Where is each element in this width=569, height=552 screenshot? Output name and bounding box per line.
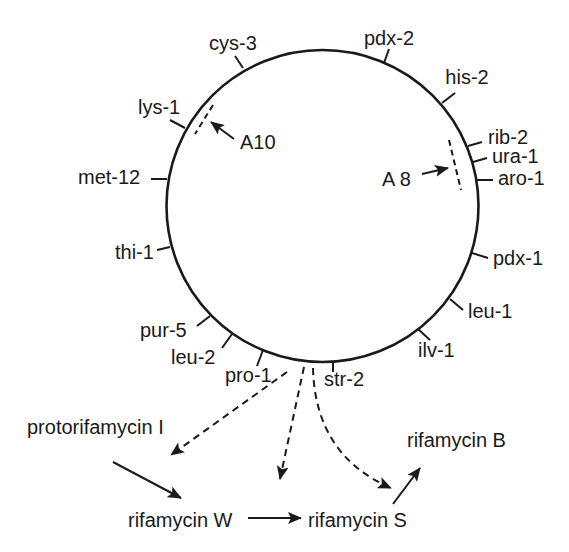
locus-label-str-2: str-2 xyxy=(324,368,364,390)
region-a10-label: A10 xyxy=(240,131,276,153)
compound-rifamycin-w: rifamycin W xyxy=(128,509,233,531)
locus-label-his-2: his-2 xyxy=(445,66,488,88)
region-a10-arrow-icon xyxy=(211,122,234,139)
locus-label-pro-1: pro-1 xyxy=(225,364,272,386)
arrow-protorifamycin-to-rifamycin-w-icon xyxy=(113,462,181,498)
locus-ticks xyxy=(151,49,493,372)
locus-label-leu-1: leu-1 xyxy=(468,300,512,322)
tick-his-2 xyxy=(442,93,455,103)
diagram-canvas: cys-3 pdx-2 his-2 rib-2 ura-1 aro-1 pdx-… xyxy=(0,0,569,552)
arrow-rifamycin-s-to-rifamycin-b-icon xyxy=(393,468,420,504)
locus-label-pdx-1: pdx-1 xyxy=(493,247,543,269)
region-a8-label: A 8 xyxy=(382,168,411,190)
compound-rifamycin-b: rifamycin B xyxy=(407,429,506,451)
locus-label-thi-1: thi-1 xyxy=(115,241,154,263)
locus-label-ilv-1: ilv-1 xyxy=(418,339,455,361)
pathway-compounds: protorifamycin I rifamycin W rifamycin S… xyxy=(27,416,506,531)
locus-label-lys-1: lys-1 xyxy=(138,96,180,118)
region-a8-dashed-segment xyxy=(449,140,461,190)
tick-leu-1 xyxy=(450,299,463,310)
dashed-arrow-to-rifamycin-w-icon xyxy=(280,367,304,479)
region-a8-arrow-icon xyxy=(422,168,448,174)
circular-chromosome xyxy=(167,50,479,362)
region-a10-dashed-segment xyxy=(195,105,213,134)
locus-label-pur-5: pur-5 xyxy=(140,319,187,341)
locus-label-ura-1: ura-1 xyxy=(492,145,539,167)
tick-pur-5 xyxy=(197,316,210,326)
locus-label-leu-2: leu-2 xyxy=(171,346,215,368)
tick-ura-1 xyxy=(473,158,487,162)
region-a10: A10 xyxy=(195,105,276,153)
tick-pdx-2 xyxy=(384,49,389,63)
locus-label-cys-3: cys-3 xyxy=(209,32,257,54)
locus-label-pdx-2: pdx-2 xyxy=(364,27,414,49)
tick-lys-1 xyxy=(170,120,185,128)
tick-leu-2 xyxy=(222,334,232,348)
locus-label-met-12: met-12 xyxy=(78,166,140,188)
region-a8: A 8 xyxy=(382,140,461,190)
locus-label-aro-1: aro-1 xyxy=(498,167,545,189)
compound-rifamycin-s: rifamycin S xyxy=(308,509,407,531)
locus-labels: cys-3 pdx-2 his-2 rib-2 ura-1 aro-1 pdx-… xyxy=(78,27,545,390)
tick-rib-2 xyxy=(468,142,482,146)
tick-cys-3 xyxy=(235,56,243,68)
compound-protorifamycin-i: protorifamycin I xyxy=(27,416,164,438)
rifamycin-genetic-map-diagram: cys-3 pdx-2 his-2 rib-2 ura-1 aro-1 pdx-… xyxy=(0,0,569,552)
tick-thi-1 xyxy=(157,247,170,250)
tick-pdx-1 xyxy=(472,253,488,258)
